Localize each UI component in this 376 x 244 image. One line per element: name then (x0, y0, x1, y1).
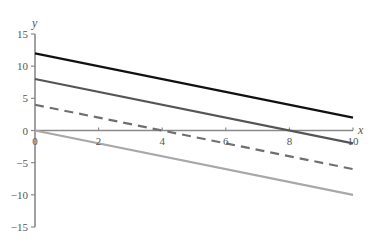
series-line-1 (35, 53, 353, 117)
x-tick-label: 6 (223, 135, 229, 147)
y-tick-label: 10 (17, 60, 29, 72)
series-line-3 (35, 105, 353, 169)
x-tick-label: 4 (159, 135, 165, 147)
x-axis-label: x (357, 123, 364, 137)
series-line-2 (35, 79, 353, 143)
y-tick-label: 15 (17, 28, 29, 40)
y-tick-label: 0 (23, 125, 29, 137)
y-tick-label: 5 (23, 92, 29, 104)
series-line-4 (35, 131, 353, 195)
line-chart: 151050−5−10−150246810xy (0, 0, 376, 244)
data-series (35, 53, 353, 195)
x-tick-label: 0 (32, 135, 38, 147)
y-tick-label: −10 (11, 189, 29, 201)
tick-labels: 151050−5−10−150246810xy (11, 16, 364, 233)
y-tick-label: −15 (11, 221, 29, 233)
x-tick-label: 2 (96, 135, 102, 147)
x-tick-label: 8 (287, 135, 293, 147)
y-tick-label: −5 (16, 157, 28, 169)
y-axis-label: y (31, 16, 38, 30)
